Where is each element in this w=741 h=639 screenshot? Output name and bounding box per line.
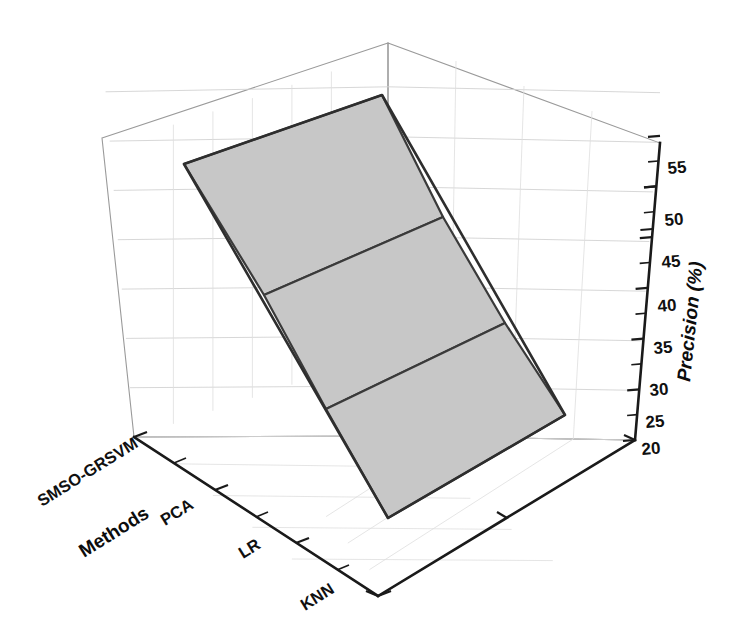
surface-plot-svg: 55 50 45 40 35 30 25 20 SMSO-GRSVM PCA L… <box>0 0 741 639</box>
x-category-label-smso-grsvm: SMSO-GRSVM <box>34 434 141 510</box>
figure-container: 55 50 45 40 35 30 25 20 SMSO-GRSVM PCA L… <box>0 0 741 639</box>
x-category-label-pca: PCA <box>157 495 196 529</box>
x-category-label-lr: LR <box>235 535 263 562</box>
z-tick-label-20: 20 <box>641 438 662 459</box>
x-category-labels: SMSO-GRSVM PCA LR KNN <box>34 434 337 614</box>
x-category-label-knn: KNN <box>297 579 337 613</box>
z-tick-label-25: 25 <box>645 411 666 432</box>
x-axis-title: Methods <box>75 502 152 561</box>
z-tick-label-55: 55 <box>667 157 688 178</box>
z-tick-label-50: 50 <box>664 209 685 230</box>
surface-group <box>184 95 565 518</box>
z-tick-label-35: 35 <box>653 337 674 358</box>
z-tick-label-45: 45 <box>661 251 682 272</box>
z-axis-title: Precision (%) <box>673 261 706 383</box>
z-tick-label-30: 30 <box>649 379 670 400</box>
z-tick-label-40: 40 <box>657 295 678 316</box>
floor-depth-gridlines <box>173 464 552 561</box>
